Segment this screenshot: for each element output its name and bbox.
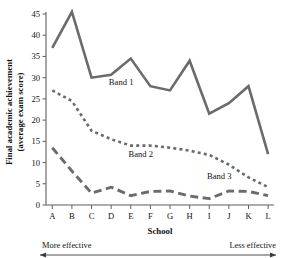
chart-background <box>0 0 281 258</box>
x-tick-label: K <box>245 211 252 221</box>
less-effective-label: Less effective <box>229 241 276 250</box>
x-tick-label: A <box>49 211 56 221</box>
series-label-3: Band 3 <box>207 171 232 181</box>
x-tick-label: I <box>208 211 211 221</box>
y-tick-label: 10 <box>31 158 40 168</box>
x-tick-label: C <box>89 211 95 221</box>
y-tick-label: 15 <box>31 136 40 146</box>
series-label-2: Band 2 <box>128 149 153 159</box>
academic-achievement-line-chart: 051015202530354045 ABCDEFGHIJKL Band 1Ba… <box>0 0 281 258</box>
x-tick-label: D <box>108 211 114 221</box>
x-tick-label: G <box>167 211 173 221</box>
y-tick-label: 45 <box>31 9 40 19</box>
y-tick-label: 35 <box>31 51 40 61</box>
x-tick-label: E <box>128 211 133 221</box>
y-tick-label: 0 <box>36 200 40 210</box>
y-tick-label: 20 <box>31 115 40 125</box>
more-effective-label: More effective <box>42 241 92 250</box>
x-tick-label: F <box>148 211 153 221</box>
chart-container: 051015202530354045 ABCDEFGHIJKL Band 1Ba… <box>0 0 281 258</box>
x-tick-label: H <box>187 211 193 221</box>
y-axis-title-line2: (average exam score) <box>15 72 25 151</box>
x-tick-label: L <box>265 211 270 221</box>
series-label-1: Band 1 <box>109 77 134 87</box>
y-tick-label: 5 <box>36 179 40 189</box>
y-tick-label: 30 <box>31 73 40 83</box>
y-tick-label: 40 <box>31 30 40 40</box>
x-axis-title: School <box>148 226 173 236</box>
y-axis-title-line1: Final academic achievement <box>4 59 14 165</box>
x-tick-label: B <box>69 211 75 221</box>
y-tick-label: 25 <box>31 94 40 104</box>
